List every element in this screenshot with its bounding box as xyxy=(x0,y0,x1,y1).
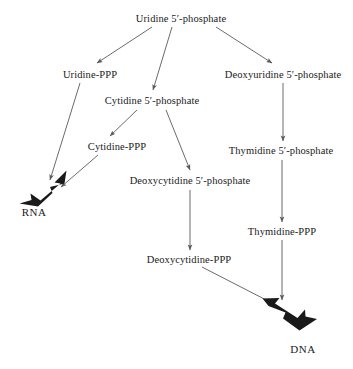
pathway-diagram: Uridine 5′-phosphate Uridine-PPP Deoxyur… xyxy=(0,0,353,369)
node-deoxycytidine-5-phosphate: Deoxycytidine 5′-phosphate xyxy=(130,175,251,187)
arrow-cytidine-to-cytidine-ppp xyxy=(110,110,137,136)
node-dna: DNA xyxy=(290,343,315,355)
arrow-cytidine-ppp-to-rna xyxy=(61,155,98,187)
arrow-deoxycytidine-ppp-to-dna xyxy=(202,267,272,303)
node-deoxyuridine-5-phosphate: Deoxyuridine 5′-phosphate xyxy=(225,69,341,81)
node-uridine-5-phosphate: Uridine 5′-phosphate xyxy=(136,13,226,25)
node-cytidine-5-phosphate: Cytidine 5′-phosphate xyxy=(105,95,200,107)
node-thymidine-ppp: Thymidine-PPP xyxy=(248,226,316,238)
arrow-uridine-to-cytidine xyxy=(153,27,172,90)
node-deoxycytidine-ppp: Deoxycytidine-PPP xyxy=(147,254,232,266)
arrow-uridine-to-uridine-ppp xyxy=(97,27,152,63)
node-rna: RNA xyxy=(22,206,47,218)
bold-arrow-rna xyxy=(20,171,67,207)
node-thymidine-5-phosphate: Thymidine 5′-phosphate xyxy=(229,145,334,157)
node-cytidine-ppp: Cytidine-PPP xyxy=(88,141,146,153)
arrow-uridine-to-deoxyuridine xyxy=(216,27,272,63)
bold-arrow-group xyxy=(20,171,318,331)
arrow-uridine-ppp-to-rna xyxy=(50,83,80,180)
node-uridine-ppp: Uridine-PPP xyxy=(63,69,117,81)
bold-arrow-dna xyxy=(263,298,318,331)
arrow-cytidine-to-deoxycytidine xyxy=(166,110,190,170)
